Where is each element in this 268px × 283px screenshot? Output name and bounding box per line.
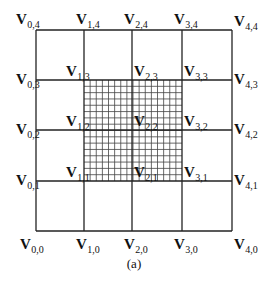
vertex-label-4-3: V4,3 xyxy=(234,71,258,90)
vertex-label-3-4: V3,4 xyxy=(174,11,198,30)
vertex-label-3-0: V3,0 xyxy=(174,236,198,255)
vertex-label-2-1: V2,1 xyxy=(134,164,158,183)
vertex-label-1-1: V1,1 xyxy=(66,164,90,183)
figure-caption: (a) xyxy=(127,256,141,271)
vertex-label-2-0: V2,0 xyxy=(124,236,148,255)
vertex-label-4-2: V4,2 xyxy=(234,121,258,140)
vertex-label-0-0: V0,0 xyxy=(20,236,44,255)
vertex-label-1-4: V1,4 xyxy=(76,11,100,30)
vertex-label-4-0: V4,0 xyxy=(234,236,258,255)
vertex-labels: V0,4V1,4V2,4V3,4V4,4V0,3V1,3V2,3V3,3V4,3… xyxy=(16,11,258,255)
vertex-label-3-3: V3,3 xyxy=(184,63,208,82)
vertex-label-4-4: V4,4 xyxy=(234,13,258,32)
vertex-label-4-1: V4,1 xyxy=(234,172,258,191)
vertex-label-0-4: V0,4 xyxy=(16,11,40,30)
vertex-label-2-3: V2,3 xyxy=(134,63,158,82)
grid-diagram: V0,4V1,4V2,4V3,4V4,4V0,3V1,3V2,3V3,3V4,3… xyxy=(0,0,268,283)
vertex-label-1-2: V1,2 xyxy=(66,113,90,132)
vertex-label-3-1: V3,1 xyxy=(184,164,208,183)
vertex-label-3-2: V3,2 xyxy=(184,113,208,132)
vertex-label-1-3: V1,3 xyxy=(66,63,90,82)
vertex-label-2-2: V2,2 xyxy=(134,113,158,132)
vertex-label-1-0: V1,0 xyxy=(76,236,100,255)
vertex-label-2-4: V2,4 xyxy=(124,11,148,30)
